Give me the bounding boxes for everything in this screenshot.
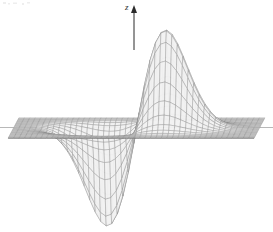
- z-axis-arrow-icon: [0, 0, 273, 232]
- surface-plot-figure: z: [0, 0, 273, 232]
- z-axis-label: z: [125, 3, 129, 12]
